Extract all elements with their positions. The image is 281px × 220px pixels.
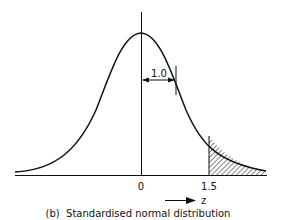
figure-caption: (b) Standardised normal distribution [46,208,231,219]
z-direction-arrow-head [186,197,196,204]
sd-label: 1.0 [151,68,167,79]
z-axis-label: z [201,195,206,206]
tick-label-zero: 0 [138,181,144,192]
normal-distribution-diagram: 1.0 0 1.5 z (b) Standardised normal dist… [0,0,281,220]
sd-arrow-left-head [142,78,149,83]
tick-label-1-5: 1.5 [201,181,217,192]
bell-curve [15,33,266,172]
